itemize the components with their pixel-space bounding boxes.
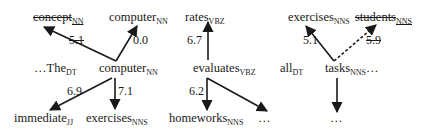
token-tasks: tasksNNS… — [325, 61, 379, 75]
weight-computer-immediate: 6.9 — [67, 84, 82, 98]
token-homeworks: homeworksNNS — [169, 111, 243, 125]
token-ellipsis-tasks: … — [330, 111, 343, 125]
weight-computer-exercises: 7.1 — [118, 84, 133, 98]
token-computer: computerNN — [99, 61, 158, 75]
token-evaluates: evaluatesVBZ — [193, 61, 256, 75]
weight-evaluates-rates: 6.7 — [187, 33, 202, 47]
token-concept: conceptNN — [33, 10, 83, 24]
weight-tasks-exercises: 5.1 — [303, 33, 318, 47]
token-immediate: immediateJJ — [14, 111, 73, 125]
weight-evaluates-homeworks: 6.2 — [189, 84, 204, 98]
edge-evaluates-ellipsis — [207, 78, 267, 111]
token-rates: ratesVBZ — [185, 10, 225, 24]
token-exercises: exercisesNNS — [86, 111, 148, 125]
weight-tasks-students: 5.9 — [366, 33, 381, 47]
token-the: …TheDT — [34, 61, 77, 75]
token-computer-head: computerNN — [109, 10, 168, 24]
token-all: allDT — [280, 61, 303, 75]
token-exercises-head: exercisesNNS — [288, 10, 350, 24]
weight-computer-computer: 0.0 — [133, 33, 148, 47]
weight-computer-concept: 5.1 — [69, 33, 84, 47]
token-students: studentsNNS — [355, 10, 412, 24]
token-ellipsis-evaluates: … — [258, 111, 271, 125]
